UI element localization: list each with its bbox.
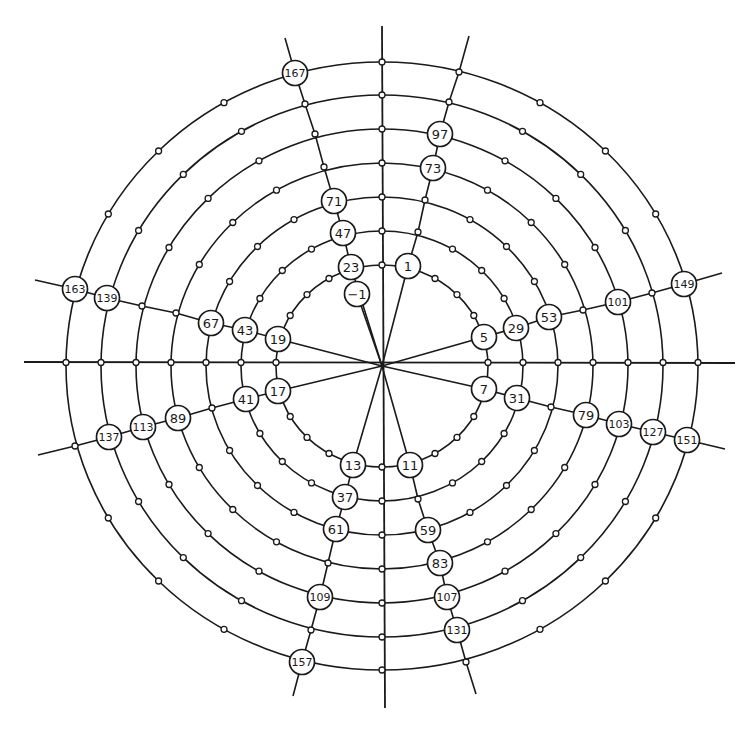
- grid-node: [326, 451, 332, 457]
- grid-node: [180, 171, 186, 177]
- point-label: 103: [609, 418, 630, 431]
- grid-node: [622, 499, 628, 505]
- grid-node: [379, 600, 385, 606]
- grid-node: [105, 515, 111, 521]
- numbered-point: 59: [416, 518, 441, 543]
- numbered-point: 17: [266, 379, 291, 404]
- grid-node: [205, 195, 211, 201]
- numbered-point: 71: [322, 189, 347, 214]
- point-label: 1: [404, 259, 412, 274]
- grid-node: [485, 539, 491, 545]
- grid-node: [578, 171, 584, 177]
- numbered-point: 7: [472, 377, 497, 402]
- grid-node: [528, 507, 534, 513]
- spoke-node: [139, 303, 145, 309]
- numbered-point: 13: [341, 453, 366, 478]
- point-label: 73: [425, 161, 442, 176]
- numbered-point: 29: [504, 316, 529, 341]
- grid-node: [203, 360, 209, 366]
- point-label: 31: [509, 391, 526, 406]
- grid-node: [255, 483, 261, 489]
- grid-node: [221, 100, 227, 106]
- point-label: 67: [203, 316, 220, 331]
- spoke-node: [415, 229, 421, 235]
- grid-node: [695, 360, 701, 366]
- grid-node: [379, 262, 385, 268]
- grid-node: [287, 313, 293, 319]
- point-label: 11: [402, 458, 419, 473]
- spoke-node: [456, 69, 462, 75]
- grid-node: [485, 187, 491, 193]
- numbered-point: 101: [606, 290, 631, 315]
- numbered-point: 167: [283, 61, 308, 86]
- point-label: 17: [270, 384, 287, 399]
- spoke-node: [446, 99, 452, 105]
- point-label: 71: [326, 194, 343, 209]
- grid-node: [279, 459, 285, 465]
- grid-node: [221, 626, 227, 632]
- grid-node: [133, 360, 139, 366]
- grid-node: [454, 434, 460, 440]
- numbered-point: 19: [266, 327, 291, 352]
- grid-node: [471, 414, 477, 420]
- point-label: 79: [578, 408, 595, 423]
- grid-node: [257, 296, 263, 302]
- grid-node: [273, 360, 279, 366]
- point-label: −1: [347, 287, 366, 302]
- numbered-point: 83: [428, 551, 453, 576]
- grid-node: [379, 228, 385, 234]
- grid-node: [450, 246, 456, 252]
- grid-node: [166, 482, 172, 488]
- grid-node: [257, 431, 263, 437]
- point-label: 149: [674, 278, 695, 291]
- grid-node: [379, 92, 385, 98]
- grid-node: [136, 499, 142, 505]
- grid-node: [98, 360, 104, 366]
- grid-node: [239, 128, 245, 134]
- grid-node: [592, 245, 598, 251]
- grid-node: [304, 434, 310, 440]
- grid-node: [578, 555, 584, 561]
- spoke-node: [173, 310, 179, 316]
- grid-node: [485, 360, 491, 366]
- grid-node: [537, 100, 543, 106]
- grid-node: [379, 160, 385, 166]
- numbered-point: 11: [398, 453, 423, 478]
- grid-node: [501, 296, 507, 302]
- numbered-point: 137: [97, 425, 122, 450]
- grid-node: [156, 578, 162, 584]
- grid-node: [504, 483, 510, 489]
- point-label: 5: [480, 330, 488, 345]
- point-label: 61: [328, 522, 345, 537]
- grid-node: [553, 531, 559, 537]
- grid-node: [502, 158, 508, 164]
- grid-node: [660, 360, 666, 366]
- numbered-point: 67: [199, 311, 224, 336]
- grid-node: [63, 360, 69, 366]
- grid-node: [379, 532, 385, 538]
- numbered-point: 23: [339, 255, 364, 280]
- grid-node: [180, 555, 186, 561]
- grid-node: [309, 246, 315, 252]
- numbered-point: 163: [63, 277, 88, 302]
- grid-node: [653, 211, 659, 217]
- grid-node: [531, 448, 537, 454]
- spoke-node: [302, 101, 308, 107]
- spoke-node: [463, 659, 469, 665]
- numbered-point: 41: [234, 387, 259, 412]
- grid-node: [520, 128, 526, 134]
- spoke-node: [548, 404, 554, 410]
- grid-node: [238, 360, 244, 366]
- point-label: 23: [343, 260, 360, 275]
- numbered-point: 31: [505, 386, 530, 411]
- point-label: 137: [99, 431, 120, 444]
- grid-node: [304, 292, 310, 298]
- spoke-node: [308, 627, 314, 633]
- spoke-node: [312, 131, 318, 137]
- grid-node: [454, 292, 460, 298]
- point-label: 53: [541, 310, 558, 325]
- grid-node: [379, 566, 385, 572]
- point-label: 113: [133, 421, 154, 434]
- grid-node: [467, 217, 473, 223]
- point-label: 89: [170, 411, 187, 426]
